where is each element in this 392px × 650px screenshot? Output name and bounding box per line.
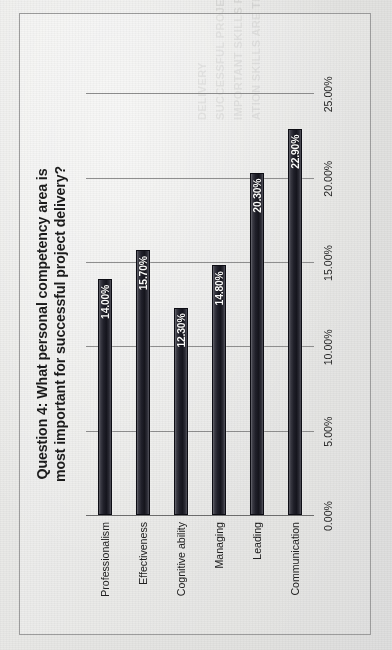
gridline-5-00 xyxy=(86,431,314,432)
gridline-25-00 xyxy=(86,93,314,94)
category-label: Effectiveness xyxy=(137,522,149,585)
tick-label: 20.00% xyxy=(322,161,334,197)
bar-value-label: 14.00% xyxy=(100,285,111,319)
bar-effectiveness[interactable]: 15.70%Effectiveness xyxy=(136,250,150,515)
category-label: Cognitive ability xyxy=(175,522,187,596)
bar-leading[interactable]: 20.30%Leading xyxy=(250,173,264,515)
category-label: Managing xyxy=(213,522,225,569)
tick-label: 5.00% xyxy=(322,417,334,447)
scanned-page: ATION SKILLS ARE THE MOST IMPORTANT SKIL… xyxy=(0,0,392,650)
rotated-chart-canvas: Question 4: What personal competency are… xyxy=(20,14,370,634)
gridline-15-00 xyxy=(86,262,314,263)
chart-title-line-1: Question 4: What personal competency are… xyxy=(34,169,50,480)
plot-area: 0.00%5.00%10.00%15.00%20.00%25.00% 14.00… xyxy=(86,64,314,516)
bar-value-label: 14.80% xyxy=(214,271,225,305)
bar-communication[interactable]: 22.90%Communication xyxy=(288,129,302,515)
tick-label: 15.00% xyxy=(322,245,334,281)
tick-label: 0.00% xyxy=(322,501,334,531)
bar-value-label: 15.70% xyxy=(138,256,149,290)
gridline-20-00 xyxy=(86,178,314,179)
bar-value-label: 12.30% xyxy=(176,314,187,348)
category-label: Communication xyxy=(289,522,301,596)
chart-title-line-2: most important for successful project de… xyxy=(52,14,70,634)
bar-value-label: 20.30% xyxy=(252,179,263,213)
bar-professionalism[interactable]: 14.00%Professionalism xyxy=(98,279,112,515)
gridline-0-00 xyxy=(86,515,314,516)
chart-frame: Question 4: What personal competency are… xyxy=(19,13,371,635)
bar-managing[interactable]: 14.80%Managing xyxy=(212,265,226,515)
bar-cognitive-ability[interactable]: 12.30%Cognitive ability xyxy=(174,308,188,515)
category-label: Professionalism xyxy=(99,522,111,597)
gridline-10-00 xyxy=(86,346,314,347)
bar-value-label: 22.90% xyxy=(290,135,301,169)
category-label: Leading xyxy=(251,522,263,560)
tick-label: 25.00% xyxy=(322,76,334,112)
chart-title: Question 4: What personal competency are… xyxy=(34,14,69,634)
tick-label: 10.00% xyxy=(322,329,334,365)
